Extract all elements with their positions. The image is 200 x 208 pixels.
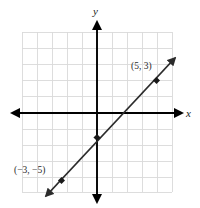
coordinate-plane-figure: y x (5, 3) (−3, −5) <box>0 0 200 208</box>
point-marker-5-3 <box>153 77 160 84</box>
point-label-5-3: (5, 3) <box>131 62 152 72</box>
point-label-neg3-neg5: (−3, −5) <box>14 166 45 176</box>
y-axis-label: y <box>93 6 98 17</box>
graph-canvas <box>0 0 200 208</box>
x-axis-label: x <box>186 108 191 119</box>
